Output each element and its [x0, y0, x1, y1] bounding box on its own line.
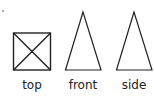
side-view — [117, 12, 153, 70]
top-view — [14, 33, 51, 70]
top-label: top — [7, 78, 57, 92]
front-label: front — [58, 78, 108, 92]
front-view — [66, 12, 102, 70]
dot-mark — [2, 10, 4, 12]
side-label: side — [109, 78, 154, 92]
